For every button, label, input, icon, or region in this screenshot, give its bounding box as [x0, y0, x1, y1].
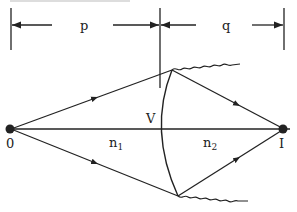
lower-incident-ray — [11, 129, 178, 196]
bottom-surface-edge — [178, 196, 248, 202]
lower-refracted-ray — [178, 129, 284, 196]
vertex-label: V — [145, 111, 156, 126]
top-surface-edge — [172, 64, 240, 70]
n1-label: n1 — [109, 135, 123, 152]
object-point — [6, 125, 15, 134]
refraction-diagram: p q V 0 I n1 n2 — [0, 0, 297, 212]
image-label: I — [279, 136, 284, 151]
p-label: p — [80, 18, 88, 33]
refracting-surface — [161, 70, 178, 196]
object-label: 0 — [6, 136, 14, 151]
upper-refracted-ray — [172, 70, 284, 129]
q-label: q — [222, 18, 230, 33]
n2-label: n2 — [203, 135, 217, 152]
image-point — [279, 125, 288, 134]
